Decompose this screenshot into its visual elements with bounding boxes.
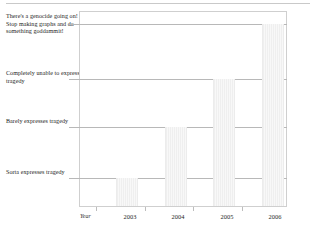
y-axis-label-completely-unable: Completely unable to express tragedy	[6, 70, 86, 85]
x-tick-2004	[145, 207, 146, 211]
chart-figure: There's a genocide going on! Stop making…	[0, 0, 316, 247]
x-axis-tick-label-2004: 2004	[161, 213, 195, 220]
x-axis-title: Year	[80, 213, 91, 219]
bar-2006	[262, 24, 284, 206]
gridline-level-3	[69, 79, 287, 80]
bar-2004	[165, 127, 187, 206]
x-tick-2003	[96, 207, 97, 211]
x-tick-2006	[242, 207, 243, 211]
x-axis-tick-label-2003: 2003	[113, 213, 147, 220]
x-axis-tick-label-2006: 2006	[258, 213, 292, 220]
bar-2005	[213, 79, 235, 206]
y-axis-label-barely-expresses: Barely expresses tragedy	[6, 118, 86, 126]
x-axis-tick-label-2005: 2005	[210, 213, 244, 220]
plot-area	[79, 11, 287, 207]
bar-2003	[116, 178, 138, 206]
page-top-rule	[6, 3, 310, 4]
y-axis-label-sorta-expresses: Sorta expresses tragedy	[6, 169, 86, 177]
x-tick-2005	[193, 207, 194, 211]
gridline-level-4	[69, 24, 287, 25]
